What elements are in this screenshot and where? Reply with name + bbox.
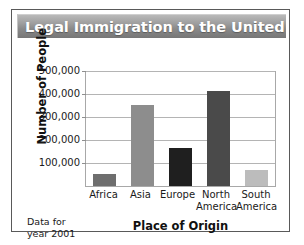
y-axis-ticks: 500,000 400,000 300,000 200,000 100,000: [24, 38, 80, 193]
chart-title-bar: Legal Immigration to the United States: [17, 14, 286, 38]
x-tick-africa: Africa: [85, 189, 122, 212]
bar-europe: [169, 148, 192, 186]
x-tick-asia: Asia: [122, 189, 159, 212]
bar-africa: [93, 174, 116, 186]
y-tick-label: 500,000: [28, 66, 80, 76]
x-axis-ticks: Africa Asia Europe North America South A…: [85, 189, 276, 212]
bar-series: [86, 71, 275, 186]
y-tick-label: 100,000: [28, 158, 80, 168]
y-tick-label: 300,000: [28, 112, 80, 122]
y-tick-label: 400,000: [28, 89, 80, 99]
chart-card: Legal Immigration to the United States N…: [11, 9, 290, 232]
x-tick-south-america: South America: [236, 189, 276, 212]
x-axis-label: Place of Origin: [85, 219, 276, 233]
chart-title: Legal Immigration to the United States: [18, 19, 286, 35]
bar-south-america: [245, 170, 268, 186]
bar-asia: [131, 105, 154, 186]
x-tick-north-america: North America: [196, 189, 236, 212]
note-line-2: year 2001: [27, 228, 75, 240]
x-tick-europe: Europe: [159, 189, 196, 212]
y-tick-label: 200,000: [28, 135, 80, 145]
data-year-note: Data for year 2001: [27, 216, 75, 240]
chart-area: Number of People 500,000 400,000 300,000…: [12, 38, 289, 232]
note-line-1: Data for: [27, 216, 75, 228]
plot-area: [85, 71, 276, 187]
bar-north-america: [207, 91, 230, 186]
